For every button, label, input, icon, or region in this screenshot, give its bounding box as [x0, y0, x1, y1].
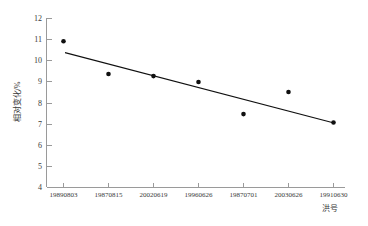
data-point [331, 120, 336, 125]
y-axis-title: 相对变化/% [12, 81, 22, 122]
data-point [286, 90, 291, 95]
x-tick-label: 19870701 [230, 191, 259, 199]
chart-svg: 12 11 10 9 8 7 6 5 4 [0, 0, 368, 226]
x-tick-label: 19910630 [320, 191, 349, 199]
x-tick-label: 19890803 [50, 191, 79, 199]
data-points [61, 39, 336, 125]
x-tick-label: 20020619 [140, 191, 169, 199]
x-tick-label: 19870815 [95, 191, 124, 199]
y-tick-label: 7 [38, 120, 42, 129]
y-tick-label: 10 [34, 56, 42, 65]
y-tick-label: 5 [38, 162, 42, 171]
chart-page: 12 11 10 9 8 7 6 5 4 [0, 0, 368, 226]
y-tick-label: 8 [38, 99, 42, 108]
x-axis-title: 洪号 [322, 203, 338, 213]
data-point [106, 72, 111, 77]
x-tick-label: 19960626 [185, 191, 214, 199]
y-tick-label: 4 [38, 183, 42, 192]
x-axis-ticks: 19890803 19870815 20020619 19960626 1987… [50, 183, 349, 200]
data-point [241, 112, 246, 117]
scatter-chart: 12 11 10 9 8 7 6 5 4 [0, 0, 368, 226]
y-tick-label: 12 [34, 14, 42, 23]
data-point [151, 74, 156, 79]
data-point [61, 39, 66, 44]
data-point [196, 80, 201, 85]
y-tick-label: 9 [38, 77, 42, 86]
x-tick-label: 20030626 [275, 191, 304, 199]
y-axis-ticks: 12 11 10 9 8 7 6 5 4 [34, 14, 52, 192]
trend-line [65, 53, 335, 124]
y-tick-label: 11 [34, 35, 42, 44]
y-tick-label: 6 [38, 141, 42, 150]
